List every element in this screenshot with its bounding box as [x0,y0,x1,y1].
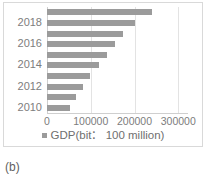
bar [47,31,123,37]
legend-square-marker-icon [42,133,47,138]
bar-fill [47,62,99,68]
bar-fill [47,105,70,111]
bar [47,94,76,100]
bar [47,84,83,90]
y-axis: 20182016201420122010 [4,7,45,113]
bar [47,73,90,79]
chart-legend: GDP(bit： 100 million) [4,129,202,141]
x-axis-tick-label: 0 [44,115,50,127]
figure-caption: (b) [5,160,20,174]
gridline [178,7,179,113]
bar-fill [47,41,115,47]
figure-panel-b: 20182016201420122010 0100000200000300000… [0,0,206,182]
plot-area [47,7,187,113]
chart-frame: 20182016201420122010 0100000200000300000… [3,2,203,147]
x-axis-tick-label: 100000 [73,115,108,127]
x-axis-tick-label: 200000 [117,115,152,127]
y-axis-tick-label: 2016 [18,38,42,49]
bar [47,105,70,111]
x-axis-line [47,113,188,114]
bar-fill [47,52,107,58]
bar-fill [47,31,123,37]
bar [47,20,135,26]
bar-fill [47,73,90,79]
bar [47,41,115,47]
y-axis-tick-label: 2010 [18,102,42,113]
legend-label: GDP(bit： 100 million) [51,129,165,141]
x-axis: 0100000200000300000 [4,115,202,129]
x-axis-tick-label: 300000 [161,115,196,127]
bar-fill [47,84,83,90]
bar [47,62,99,68]
bar-fill [47,9,152,15]
y-axis-tick-label: 2018 [18,17,42,28]
bar-fill [47,94,76,100]
y-axis-tick-label: 2012 [18,81,42,92]
bar [47,52,107,58]
bar [47,9,152,15]
y-axis-tick-label: 2014 [18,59,42,70]
bar-fill [47,20,135,26]
